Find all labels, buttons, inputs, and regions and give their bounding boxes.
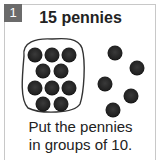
instruction-text: Put the pennies in groups of 10. — [0, 118, 161, 154]
instruction-line-1: Put the pennies — [0, 118, 161, 136]
loose-pennies — [98, 46, 145, 118]
instruction-line-2: in groups of 10. — [0, 136, 161, 154]
penny-group-of-ten — [28, 48, 77, 112]
